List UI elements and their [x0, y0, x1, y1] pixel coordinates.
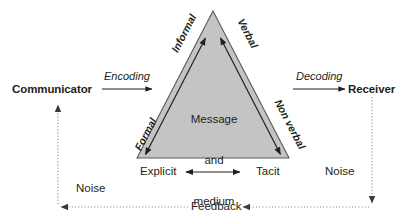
noise-left-label: Noise: [76, 182, 105, 196]
explicit-label: Explicit: [140, 165, 176, 179]
communicator-label: Communicator: [12, 83, 92, 97]
receiver-label: Receiver: [348, 83, 395, 97]
communication-model-diagram: Communicator Receiver Encoding Decoding …: [0, 0, 410, 224]
encoding-label: Encoding: [104, 70, 150, 83]
decoding-label: Decoding: [296, 70, 342, 83]
message-medium-line-1: Message: [179, 113, 249, 127]
noise-right-label: Noise: [325, 165, 354, 179]
message-medium-line-2: and: [179, 154, 249, 168]
tacit-label: Tacit: [256, 165, 280, 179]
feedback-label: Feedback: [191, 200, 242, 214]
